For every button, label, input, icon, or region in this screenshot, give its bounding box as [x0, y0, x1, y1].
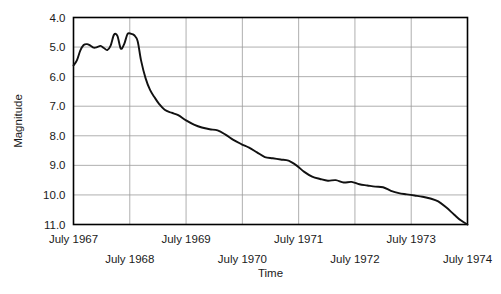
x-tick-label: July 1974 [443, 253, 493, 265]
x-tick-label: July 1970 [218, 253, 267, 265]
chart-canvas: 4.05.06.07.08.09.010.011.0 July 1967July… [0, 0, 501, 294]
y-tick-label: 5.0 [50, 41, 66, 53]
y-axis-title: Magnitude [12, 94, 24, 148]
x-tick-label: July 1968 [105, 253, 154, 265]
x-axis-tick-labels: July 1967July 1968July 1969July 1970July… [49, 233, 493, 265]
light-curve-chart: 4.05.06.07.08.09.010.011.0 July 1967July… [0, 0, 501, 294]
x-tick-label: July 1969 [161, 233, 210, 245]
data-series-group [74, 33, 468, 224]
plot-frame [74, 18, 468, 225]
y-tick-label: 9.0 [50, 159, 66, 171]
x-tick-label: July 1967 [49, 233, 98, 245]
x-tick-label: July 1971 [274, 233, 323, 245]
y-tick-label: 11.0 [44, 219, 66, 231]
y-tick-label: 10.0 [43, 189, 65, 201]
data-curve [74, 33, 468, 224]
y-axis-tick-labels: 4.05.06.07.08.09.010.011.0 [43, 12, 65, 231]
x-tick-label: July 1973 [387, 233, 436, 245]
x-tick-label: July 1972 [330, 253, 379, 265]
plot-border [74, 18, 468, 225]
y-tick-label: 6.0 [50, 71, 66, 83]
y-tick-label: 7.0 [50, 100, 66, 112]
grid-lines [74, 18, 468, 225]
x-axis-title: Time [258, 267, 283, 279]
y-tick-label: 4.0 [50, 12, 66, 24]
y-tick-label: 8.0 [50, 130, 66, 142]
